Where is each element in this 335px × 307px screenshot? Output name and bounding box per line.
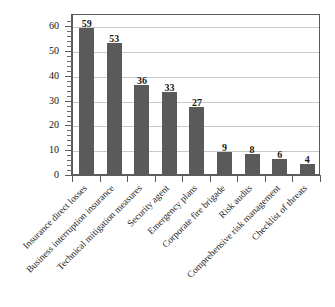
y-tick-minor [67,145,72,146]
bar[interactable] [79,28,94,174]
y-tick-minor [67,86,72,87]
y-tick [65,26,72,27]
category-label: Comprehensive risk management [185,183,282,280]
bar[interactable] [245,154,260,174]
y-tick-minor [67,66,72,67]
plot-area: 59533633279864 [72,14,320,175]
x-tick [210,176,211,182]
y-tick-minor [67,165,72,166]
x-tick [72,176,73,182]
bar[interactable] [217,152,232,174]
y-tick [65,76,72,77]
y-tick [65,51,72,52]
y-tick-minor [67,71,72,72]
x-tick [320,176,321,182]
y-tick-minor [67,111,72,112]
y-tick-label: 10 [19,145,59,155]
y-tick-label: 20 [19,120,59,130]
category-label: Business interruption insurance [25,183,117,275]
x-tick [100,176,101,182]
category-label: Corporate fire brigade [160,183,227,250]
y-tick-minor [67,135,72,136]
y-tick-minor [67,170,72,171]
bar[interactable] [162,92,177,174]
y-tick-minor [67,91,72,92]
bar-slot [73,15,101,174]
category-label: Technical mitigation measures [55,183,144,272]
y-tick-minor [67,160,72,161]
bar[interactable] [272,159,287,174]
y-tick [65,101,72,102]
y-tick-minor [67,36,72,37]
y-tick-minor [67,116,72,117]
bar[interactable] [134,85,149,174]
bars-layer: 59533633279864 [73,15,319,174]
y-tick-minor [67,56,72,57]
y-tick-minor [67,140,72,141]
x-tick [127,176,128,182]
y-tick-minor [67,96,72,97]
category-label: Security agent [126,183,172,229]
bar-value-label: 9 [211,142,239,153]
x-axis-line [71,175,321,176]
x-tick [155,176,156,182]
bar-slot [128,15,156,174]
y-tick-minor [67,130,72,131]
y-tick-minor [67,155,72,156]
bar-value-label: 4 [293,154,321,165]
x-tick [237,176,238,182]
y-tick-minor [67,121,72,122]
y-tick [65,125,72,126]
y-tick-minor [67,46,72,47]
y-tick-minor [67,61,72,62]
x-tick [182,176,183,182]
category-label: Emergency plans [146,183,199,236]
bar-value-label: 8 [238,144,266,155]
bar-value-label: 6 [266,149,294,160]
bar-value-label: 33 [156,82,184,93]
bar-value-label: 27 [183,97,211,108]
bar[interactable] [189,107,204,174]
y-tick-label: 60 [19,21,59,31]
bar-value-label: 36 [128,75,156,86]
bar-chart: 59533633279864 0102030405060 Insurance d… [0,0,335,307]
y-tick-minor [67,81,72,82]
category-label: Risk audits [217,183,254,220]
y-tick-minor [67,106,72,107]
y-tick-label: 30 [19,96,59,106]
bar[interactable] [107,43,122,174]
y-tick-label: 50 [19,46,59,56]
bar-slot [156,15,184,174]
bar-slot [183,15,211,174]
category-label: Insurance direct losses [21,183,89,251]
bar-value-label: 53 [101,33,129,44]
bar-slot [293,15,321,174]
category-label: Checklist of threats [250,183,309,242]
y-tick-minor [67,31,72,32]
y-tick-label: 40 [19,71,59,81]
y-tick-minor [67,21,72,22]
y-tick-minor [67,41,72,42]
y-tick [65,150,72,151]
x-tick [292,176,293,182]
y-tick-label: 0 [19,170,59,180]
bar-value-label: 59 [73,18,101,29]
x-tick [265,176,266,182]
bar[interactable] [300,164,315,174]
